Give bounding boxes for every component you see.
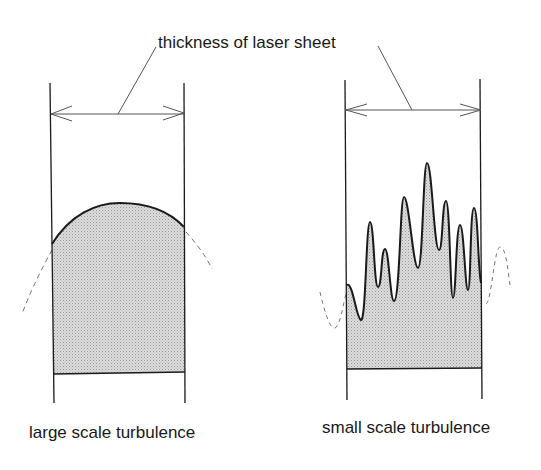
large-scale-dashed-right — [186, 232, 212, 269]
caption-large-scale: large scale turbulence — [29, 423, 195, 442]
laser-sheet-thickness-label: thickness of laser sheet — [158, 33, 336, 52]
panel-small-scale — [320, 79, 510, 400]
sheet-boundary-right-a — [345, 80, 347, 400]
leader-line-left — [118, 47, 156, 114]
small-scale-dashed-left — [320, 292, 346, 328]
turbulence-diagram: thickness of laser sheet — [0, 0, 541, 470]
arrowhead-left-end — [163, 106, 184, 120]
caption-small-scale: small scale turbulence — [322, 418, 490, 437]
small-scale-fill — [347, 163, 482, 369]
leader-line-right — [378, 46, 412, 110]
panel-large-scale — [22, 83, 212, 403]
small-scale-dashed-right — [486, 247, 510, 304]
large-scale-fill — [52, 203, 185, 374]
large-scale-dashed-left — [22, 250, 52, 314]
